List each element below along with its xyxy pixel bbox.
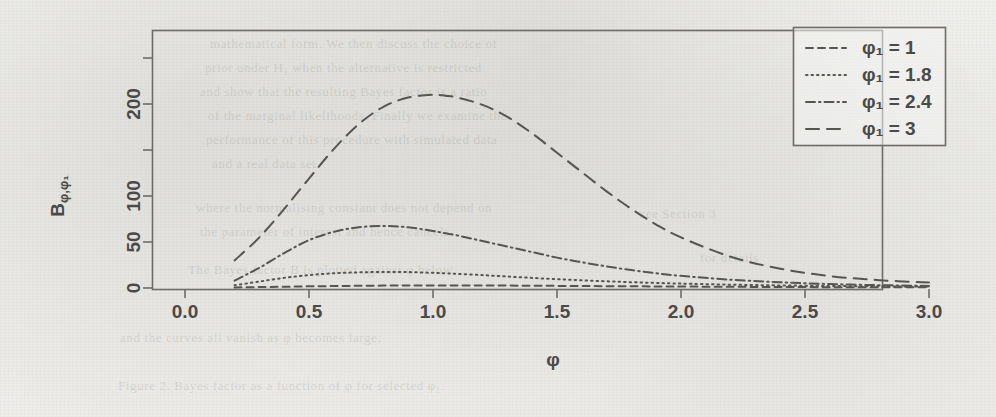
legend-label: φ₁ = 1.8 — [862, 64, 932, 85]
x-axis-tick-label: 3.0 — [916, 301, 942, 322]
x-axis-tick-label: 0.5 — [296, 301, 323, 322]
x-axis-tick-label: 1.5 — [544, 301, 571, 322]
x-axis-tick-label: 1.0 — [420, 301, 446, 322]
x-axis-tick-label: 2.0 — [668, 301, 694, 322]
bayes-factor-plot: 050100200 0.00.51.01.52.02.53.0 Bφ,φ₁ φ … — [0, 0, 996, 417]
y-axis-title: Bφ,φ₁ — [47, 175, 71, 216]
y-axis-tick-label: 200 — [123, 88, 144, 120]
plot-frame — [153, 31, 883, 290]
x-axis: 0.00.51.01.52.02.53.0 — [172, 289, 942, 322]
y-axis-title-text: Bφ,φ₁ — [47, 175, 71, 216]
data-curve — [235, 285, 929, 287]
y-axis-tick-label: 50 — [123, 231, 144, 252]
legend-label: φ₁ = 1 — [862, 37, 916, 58]
y-axis: 050100200 — [123, 58, 153, 293]
x-axis-tick-label: 0.0 — [172, 301, 198, 322]
y-axis-tick-label: 0 — [123, 283, 144, 294]
legend-label: φ₁ = 2.4 — [862, 91, 932, 112]
legend: φ₁ = 1φ₁ = 1.8φ₁ = 2.4φ₁ = 3 — [794, 28, 946, 146]
y-axis-tick-label: 100 — [123, 180, 144, 212]
figure-container: 050100200 0.00.51.01.52.02.53.0 Bφ,φ₁ φ … — [0, 0, 996, 417]
legend-label: φ₁ = 3 — [862, 118, 916, 139]
x-axis-title: φ — [546, 349, 560, 370]
data-curve — [235, 226, 929, 286]
x-axis-tick-label: 2.5 — [792, 301, 819, 322]
